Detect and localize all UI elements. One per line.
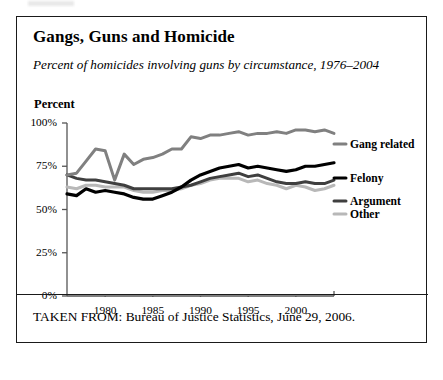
scan-artifact [28, 1, 74, 6]
figure-subtitle: Percent of homicides involving guns by c… [33, 57, 379, 73]
y-axis-title: Percent [34, 97, 75, 112]
figure-panel: Gangs, Guns and Homicide Percent of homi… [16, 16, 427, 343]
source-note: TAKEN FROM: Bureau of Justice Statistics… [33, 309, 355, 325]
legend-item-gang-related: Gang related [350, 138, 415, 151]
series-layer [67, 130, 346, 214]
legend-item-argument: Argument [350, 195, 401, 208]
figure-title: Gangs, Guns and Homicide [33, 27, 235, 47]
footer-divider [17, 294, 428, 295]
y-tick-label: 75% [17, 159, 57, 171]
legend-item-felony: Felony [350, 172, 384, 185]
series-line-gang-related [67, 130, 334, 180]
y-tick-label: 50% [17, 203, 57, 215]
legend-item-other: Other [350, 208, 380, 221]
y-tick-label: 25% [17, 246, 57, 258]
y-tick-label: 100% [17, 116, 57, 128]
figure-content: Gangs, Guns and Homicide Percent of homi… [17, 17, 428, 344]
